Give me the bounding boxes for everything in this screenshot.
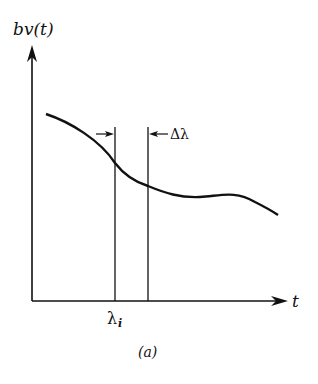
y-axis-label: bv(t): [13, 19, 54, 39]
figure-caption: (a): [138, 344, 157, 360]
diagram: bv(t) t Δλ λ i (a): [0, 0, 318, 384]
x-axis-label: t: [292, 291, 299, 311]
lambda-subscript: i: [118, 317, 122, 330]
lambda-label: λ: [107, 309, 117, 328]
delta-lambda-label: Δλ: [170, 126, 189, 142]
bv-curve: [46, 114, 278, 215]
